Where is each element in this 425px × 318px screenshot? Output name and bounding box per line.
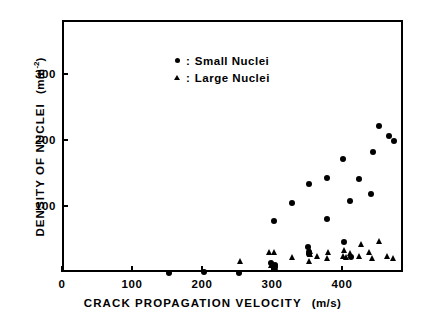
legend: : Small Nuclei : Large Nuclei <box>171 52 270 86</box>
data-point-triangle <box>347 250 353 256</box>
legend-separator-1: : <box>186 72 190 84</box>
y-axis-tick <box>62 205 68 207</box>
data-point-circle <box>289 200 295 206</box>
data-point-triangle <box>314 253 320 259</box>
scatter-chart-figure: DENSITY OF NUCLEI(mm-2) CRACK PROPAGATIO… <box>0 0 425 318</box>
x-axis-tick <box>271 266 273 272</box>
data-point-circle <box>370 149 376 155</box>
data-point-triangle <box>306 258 312 264</box>
data-point-circle <box>324 175 330 181</box>
y-axis-title: DENSITY OF NUCLEI(mm-2) <box>32 22 46 272</box>
data-point-triangle <box>341 247 347 253</box>
data-point-triangle <box>289 254 295 260</box>
legend-item-large-nuclei: : Large Nuclei <box>171 69 270 86</box>
y-axis-tick <box>62 73 68 75</box>
data-point-triangle <box>324 255 330 261</box>
legend-label-large-nuclei: Large Nuclei <box>195 72 270 84</box>
x-axis-title-text: CRACK PROPAGATION VELOCITY <box>84 297 302 309</box>
y-axis-unit-suffix: ) <box>34 57 46 61</box>
legend-separator-0: : <box>186 55 190 67</box>
data-point-circle <box>391 138 397 144</box>
x-axis-unit: (m/s) <box>312 297 341 309</box>
data-point-triangle <box>271 249 277 255</box>
data-point-circle <box>341 239 347 245</box>
data-point-circle <box>340 156 346 162</box>
data-point-triangle <box>237 258 243 264</box>
data-point-triangle <box>307 248 313 254</box>
data-point-circle <box>306 181 312 187</box>
y-axis-tick-label: 100 <box>14 200 56 212</box>
plot-frame: : Small Nuclei : Large Nuclei <box>62 20 403 272</box>
triangle-marker-icon <box>171 75 183 80</box>
data-point-circle <box>271 218 277 224</box>
y-axis-tick <box>62 139 68 141</box>
y-axis-tick-label: 300 <box>14 68 56 80</box>
x-axis-tick-label: 0 <box>59 278 66 290</box>
x-axis-tick-label: 100 <box>122 278 143 290</box>
x-axis-tick-label: 200 <box>192 278 213 290</box>
x-axis-tick-label: 300 <box>262 278 283 290</box>
data-point-triangle <box>384 253 390 259</box>
data-point-triangle <box>376 238 382 244</box>
legend-label-small-nuclei: Small Nuclei <box>195 55 269 67</box>
data-point-triangle <box>390 255 396 261</box>
data-point-circle <box>166 270 172 276</box>
x-axis-tick <box>341 266 343 272</box>
x-axis-tick <box>61 266 63 272</box>
data-point-triangle <box>325 249 331 255</box>
data-point-circle <box>236 270 242 276</box>
circle-marker-icon <box>171 58 183 63</box>
data-point-triangle <box>358 241 364 247</box>
data-point-triangle <box>369 255 375 261</box>
x-axis-tick <box>201 266 203 272</box>
y-axis-tick-label: 200 <box>14 134 56 146</box>
data-point-circle <box>376 123 382 129</box>
data-point-circle <box>324 216 330 222</box>
data-point-circle <box>368 191 374 197</box>
x-axis-tick <box>131 266 133 272</box>
y-axis-title-text: DENSITY OF NUCLEI <box>34 103 46 237</box>
x-axis-title: CRACK PROPAGATION VELOCITY(m/s) <box>0 297 425 309</box>
x-axis-tick-label: 400 <box>332 278 353 290</box>
legend-item-small-nuclei: : Small Nuclei <box>171 52 270 69</box>
data-point-circle <box>356 176 362 182</box>
data-point-triangle <box>356 253 362 259</box>
data-point-circle <box>347 198 353 204</box>
